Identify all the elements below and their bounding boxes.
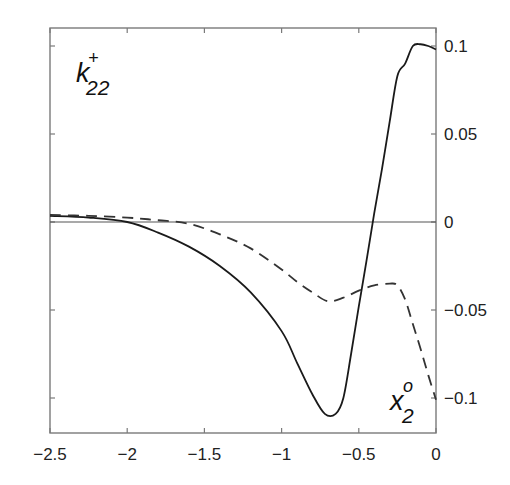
y-var-sub: 22 (85, 76, 110, 99)
dashed-series-line (50, 215, 436, 400)
series-layer (50, 44, 436, 416)
x-tick-label: −1 (272, 445, 291, 464)
y-tick-label: −0.05 (444, 301, 487, 320)
x-tick-label: −2 (118, 445, 137, 464)
x-var-sup: o (403, 376, 413, 396)
x-tick-label: −1.5 (188, 445, 222, 464)
y-var-sup: + (88, 48, 99, 68)
y-tick-label: 0.1 (444, 37, 468, 56)
y-variable-label: k + 22 (76, 48, 110, 99)
y-tick-label: 0.05 (444, 125, 477, 144)
y-tick-label: 0 (444, 213, 453, 232)
x-tick-label: 0 (431, 445, 440, 464)
solid-series-line (50, 44, 436, 416)
x-var-sub: 2 (401, 404, 414, 427)
line-chart: −2.5−2−1.5−1−0.50 0.10.050−0.05−0.1 k + … (0, 0, 510, 485)
x-tick-label: −2.5 (33, 445, 67, 464)
y-tick-label: −0.1 (444, 389, 478, 408)
x-variable-label: x o 2 (388, 376, 414, 427)
x-tick-label: −0.5 (342, 445, 376, 464)
